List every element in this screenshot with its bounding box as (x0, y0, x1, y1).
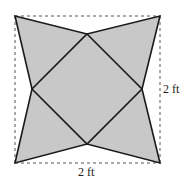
bottom-dimension-label: 2 ft (78, 166, 94, 178)
star-shape (15, 16, 160, 163)
star-figure: 2 ft 2 ft (0, 0, 187, 182)
right-dimension-label: 2 ft (163, 83, 179, 95)
